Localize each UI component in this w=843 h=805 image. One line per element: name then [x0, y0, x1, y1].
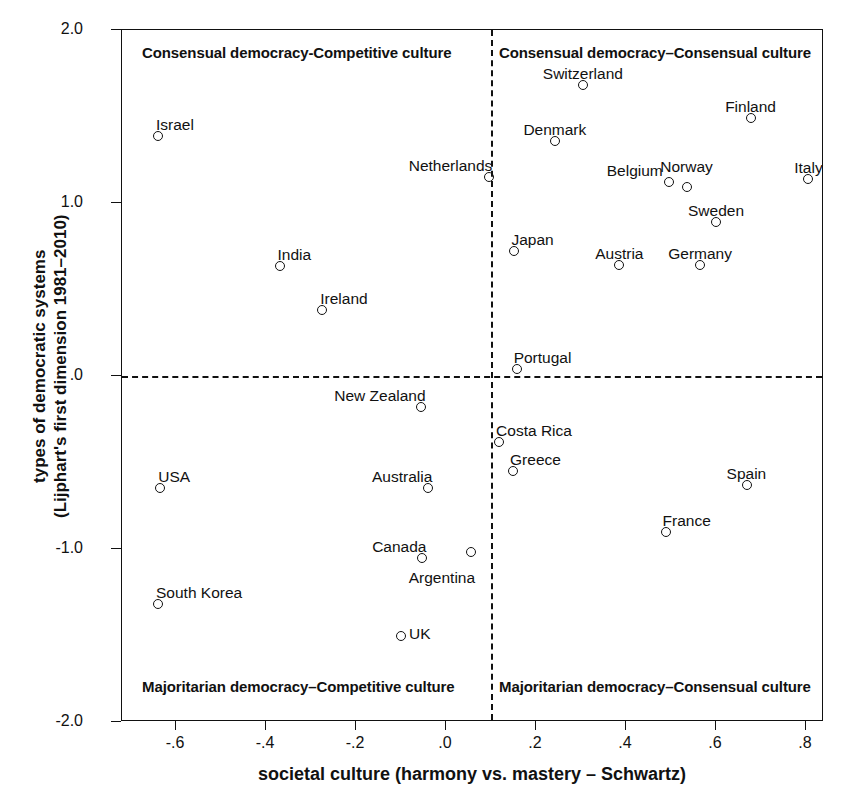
y-axis-tick: [111, 721, 121, 722]
data-point[interactable]: [396, 631, 406, 641]
data-point-label: Greece: [510, 452, 561, 468]
data-point-label: Germany: [668, 246, 732, 262]
scatter-plot-figure: types of democratic systems (Lijphart's …: [0, 0, 843, 805]
horizontal-reference-line: [122, 376, 822, 378]
x-axis-tick: [625, 721, 626, 730]
data-point-label: Austria: [595, 246, 643, 262]
x-axis-tick: [805, 721, 806, 730]
x-axis-tick: [265, 721, 266, 730]
data-point-label: Canada: [372, 539, 426, 555]
data-point-label: Netherlands: [409, 158, 493, 174]
data-point-label: Ireland: [320, 291, 367, 307]
x-axis-tick: [175, 721, 176, 730]
quadrant-label-top-left: Consensual democracy-Competitive culture: [142, 44, 451, 61]
data-point-label: Argentina: [409, 570, 475, 586]
x-axis-tick-label: .4: [618, 734, 631, 752]
x-axis-tick-label: -.4: [256, 734, 275, 752]
data-point-label: Finland: [725, 99, 776, 115]
y-axis-tick-label: -1.0: [23, 539, 83, 557]
data-point-label: UK: [409, 626, 431, 642]
quadrant-label-bottom-right: Majoritarian democracy–Consensual cultur…: [499, 678, 811, 695]
data-point-label: Italy: [794, 160, 822, 176]
y-axis-tick: [111, 375, 121, 376]
data-point[interactable]: [466, 547, 476, 557]
data-point-label: Sweden: [688, 203, 744, 219]
data-point-label: USA: [158, 469, 190, 485]
data-point-label: New Zealand: [334, 388, 425, 404]
x-axis-tick: [445, 721, 446, 730]
x-axis-tick: [355, 721, 356, 730]
data-point-label: Portugal: [514, 350, 572, 366]
y-axis-tick-label: -2.0: [23, 712, 83, 730]
y-axis-tick-label: 1.0: [23, 193, 83, 211]
data-point-label: France: [663, 513, 711, 529]
data-point-label: Spain: [727, 466, 767, 482]
data-point-label: Japan: [511, 232, 553, 248]
plot-area: Consensual democracy-Competitive culture…: [121, 29, 823, 721]
data-point-label: Switzerland: [543, 66, 623, 82]
vertical-reference-line: [491, 30, 493, 720]
x-axis-tick-label: .0: [438, 734, 451, 752]
x-axis-tick: [535, 721, 536, 730]
data-point-label: India: [278, 247, 312, 263]
data-point-label: Israel: [156, 117, 194, 133]
y-axis-tick: [111, 29, 121, 30]
x-axis-tick: [715, 721, 716, 730]
quadrant-label-bottom-left: Majoritarian democracy–Competitive cultu…: [142, 678, 455, 695]
x-axis-title: societal culture (harmony vs. mastery – …: [121, 764, 823, 785]
x-axis-tick-label: -.6: [166, 734, 185, 752]
y-axis-tick: [111, 548, 121, 549]
data-point-label: Costa Rica: [496, 423, 572, 439]
data-point-label: South Korea: [156, 585, 242, 601]
y-axis-tick-label: 2.0: [23, 20, 83, 38]
quadrant-label-top-right: Consensual democracy–Consensual culture: [499, 44, 811, 61]
data-point-label: Denmark: [523, 122, 586, 138]
x-axis-tick-label: -.2: [346, 734, 365, 752]
x-axis-tick-label: .8: [798, 734, 811, 752]
x-axis-tick-label: .2: [528, 734, 541, 752]
data-point-label: Norway: [660, 159, 713, 175]
data-point-label: Australia: [372, 469, 432, 485]
x-axis-tick-label: .6: [708, 734, 721, 752]
data-point[interactable]: [682, 182, 692, 192]
data-point-label: Belgium: [607, 163, 663, 179]
y-axis-tick-label: .0: [23, 366, 83, 384]
y-axis-tick: [111, 202, 121, 203]
data-point[interactable]: [664, 177, 674, 187]
